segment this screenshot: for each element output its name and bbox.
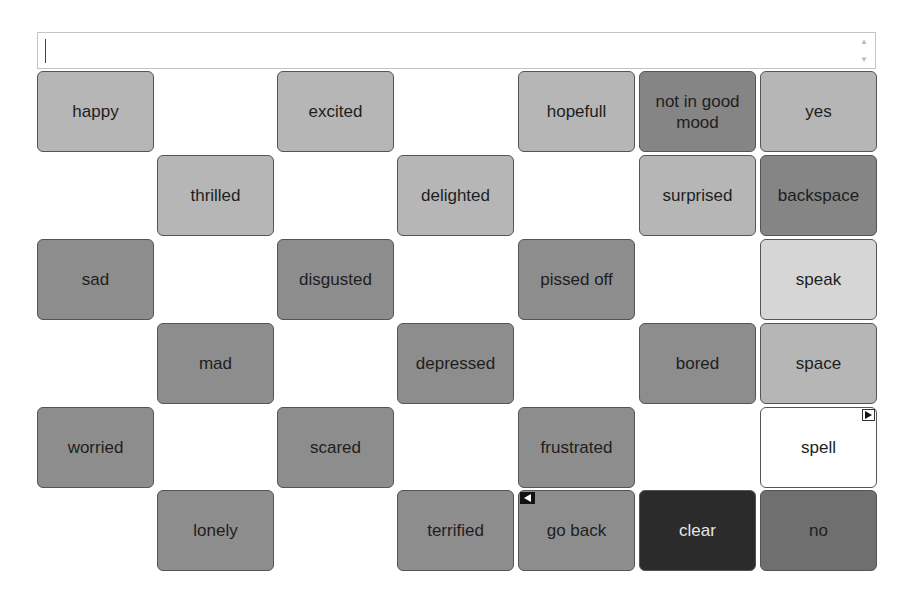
back-arrow-icon <box>520 492 535 504</box>
excited-button[interactable]: excited <box>277 71 394 152</box>
text-caret <box>45 39 46 63</box>
scroll-arrows[interactable]: ▲ ▼ <box>859 37 869 65</box>
lonely-button[interactable]: lonely <box>157 490 274 571</box>
mad-button[interactable]: mad <box>157 323 274 404</box>
scroll-up-icon[interactable]: ▲ <box>860 37 868 47</box>
button-label: not in good mood <box>644 91 751 133</box>
forward-arrow-icon <box>862 409 875 421</box>
button-label: pissed off <box>540 269 612 290</box>
pissed-off-button[interactable]: pissed off <box>518 239 635 320</box>
button-label: bored <box>676 353 719 374</box>
button-label: yes <box>805 101 831 122</box>
frustrated-button[interactable]: frustrated <box>518 407 635 488</box>
button-label: mad <box>199 353 232 374</box>
space-button[interactable]: space <box>760 323 877 404</box>
terrified-button[interactable]: terrified <box>397 490 514 571</box>
scared-button[interactable]: scared <box>277 407 394 488</box>
worried-button[interactable]: worried <box>37 407 154 488</box>
button-label: hopefull <box>547 101 607 122</box>
button-label: depressed <box>416 353 495 374</box>
hopefull-button[interactable]: hopefull <box>518 71 635 152</box>
clear-button[interactable]: clear <box>639 490 756 571</box>
button-label: space <box>796 353 841 374</box>
button-label: backspace <box>778 185 859 206</box>
button-label: surprised <box>663 185 733 206</box>
button-label: lonely <box>193 520 237 541</box>
button-label: terrified <box>427 520 484 541</box>
button-label: speak <box>796 269 841 290</box>
button-label: delighted <box>421 185 490 206</box>
button-label: disgusted <box>299 269 372 290</box>
button-label: spell <box>801 437 836 458</box>
thrilled-button[interactable]: thrilled <box>157 155 274 236</box>
go-back-button[interactable]: go back <box>518 490 635 571</box>
scroll-down-icon[interactable]: ▼ <box>860 55 868 65</box>
button-label: sad <box>82 269 109 290</box>
button-label: frustrated <box>541 437 613 458</box>
depressed-button[interactable]: depressed <box>397 323 514 404</box>
surprised-button[interactable]: surprised <box>639 155 756 236</box>
spell-button[interactable]: spell <box>760 407 877 488</box>
button-label: no <box>809 520 828 541</box>
speak-button[interactable]: speak <box>760 239 877 320</box>
not-in-good-mood-button[interactable]: not in good mood <box>639 71 756 152</box>
happy-button[interactable]: happy <box>37 71 154 152</box>
delighted-button[interactable]: delighted <box>397 155 514 236</box>
backspace-button[interactable]: backspace <box>760 155 877 236</box>
disgusted-button[interactable]: disgusted <box>277 239 394 320</box>
sad-button[interactable]: sad <box>37 239 154 320</box>
button-label: go back <box>547 520 607 541</box>
button-label: clear <box>679 520 716 541</box>
no-button[interactable]: no <box>760 490 877 571</box>
button-label: excited <box>309 101 363 122</box>
button-label: thrilled <box>190 185 240 206</box>
button-label: scared <box>310 437 361 458</box>
bored-button[interactable]: bored <box>639 323 756 404</box>
button-label: worried <box>68 437 124 458</box>
message-input[interactable]: ▲ ▼ <box>37 32 876 69</box>
yes-button[interactable]: yes <box>760 71 877 152</box>
button-label: happy <box>72 101 118 122</box>
